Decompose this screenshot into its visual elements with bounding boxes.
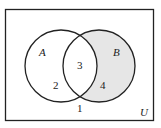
region-outside-label: 1 [77, 102, 83, 114]
set-b-label: B [113, 46, 120, 58]
set-a-label: A [38, 46, 46, 58]
region-only-a-label: 2 [53, 79, 59, 91]
venn-diagram: A B 2 3 4 1 U [0, 0, 161, 128]
universe-label: U [140, 106, 149, 118]
region-only-b-label: 4 [100, 79, 106, 91]
region-intersection-label: 3 [77, 59, 83, 71]
